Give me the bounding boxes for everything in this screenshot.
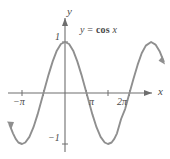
x-axis-label: x [158, 86, 163, 97]
equation-variable: x [113, 24, 118, 35]
y-axis-arrow-icon [62, 18, 68, 26]
y-tick-label-one: 1 [55, 32, 60, 42]
x-axis-arrow-icon [144, 90, 152, 96]
x-tick-label-two-pi: 2π [117, 97, 127, 107]
y-tick-label-negative-one: −1 [48, 133, 60, 143]
x-tick-label-pi: π [89, 97, 94, 107]
equation-function-name: cos [96, 24, 110, 35]
cosine-function-figure: y x 1 −1 −π π 2π y = cos x [0, 0, 170, 159]
y-axis-label: y [67, 6, 72, 17]
equation-annotation: y = cos x [80, 25, 117, 35]
x-tick-label-negative-pi: −π [13, 97, 25, 107]
